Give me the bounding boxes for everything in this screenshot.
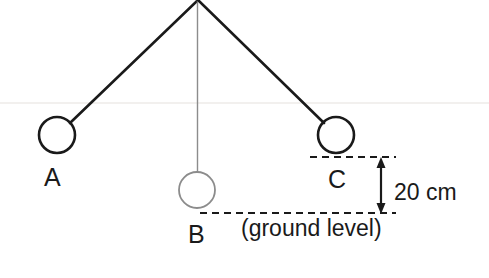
bob-a-label: A [44,163,61,192]
bob-a-circle [39,117,75,153]
diagram-canvas: A B C 20 cm (ground level) [0,0,489,278]
bob-c-label: C [328,165,346,194]
height-dimension-label: 20 cm [394,179,457,206]
string-to-bob-c [198,0,324,123]
bob-c-circle [318,117,354,153]
ground-level-label: (ground level) [241,215,382,242]
bob-b-circle [179,172,215,208]
string-to-bob-a [70,0,198,123]
bob-b-label: B [188,220,205,249]
dimension-arrowhead-up [377,157,386,168]
